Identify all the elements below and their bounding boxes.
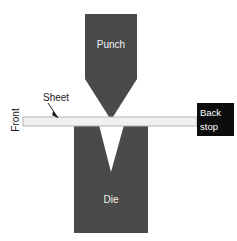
backstop-label-line2: stop <box>200 121 218 132</box>
die-label: Die <box>103 194 118 205</box>
sheet-shape <box>23 117 197 126</box>
diagram-canvas: Punch Die Sheet Back stop Front <box>0 0 237 241</box>
v-bending-diagram: Punch Die Sheet Back stop Front <box>0 0 237 241</box>
die-shape <box>74 125 148 233</box>
punch-shape <box>85 14 137 120</box>
backstop-label-line1: Back <box>200 107 221 118</box>
punch-label: Punch <box>97 39 125 50</box>
front-label: Front <box>10 108 21 132</box>
sheet-label: Sheet <box>43 92 69 103</box>
